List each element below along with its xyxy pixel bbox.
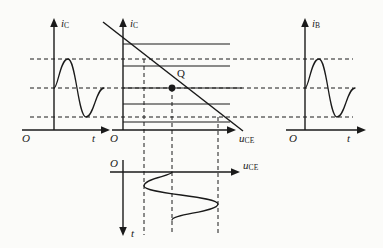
left-origin-label: O xyxy=(22,133,30,144)
right-x-axis-arrow xyxy=(357,126,366,134)
panel-right xyxy=(286,18,366,134)
center-x-axis-arrow xyxy=(227,126,236,134)
left-x-axis-arrow xyxy=(101,126,110,134)
bottom-sine-waveform xyxy=(144,172,218,220)
left-y-axis-subscript: C xyxy=(64,21,69,30)
dc-load-line xyxy=(103,22,243,131)
bottom-y-axis-label: t xyxy=(131,228,134,239)
figure-canvas: iC t O iC uCE O Q iB t O O uCE t xyxy=(0,0,383,248)
panel-bottom xyxy=(110,160,240,236)
right-y-axis-arrow xyxy=(301,18,309,27)
left-y-axis-arrow xyxy=(50,18,58,27)
q-point-label: Q xyxy=(177,68,185,79)
bottom-x-axis-label: uCE xyxy=(243,160,258,172)
panel-center xyxy=(103,18,243,134)
right-origin-label: O xyxy=(289,133,297,144)
circuit-analysis-diagram xyxy=(0,0,383,248)
center-origin-label: O xyxy=(110,133,118,144)
q-operating-point xyxy=(169,85,176,92)
center-y-axis-subscript: C xyxy=(133,21,138,30)
right-y-axis-subscript: B xyxy=(315,21,320,30)
bottom-time-axis-arrow xyxy=(119,227,127,236)
bottom-voltage-axis-arrow xyxy=(231,168,240,176)
left-y-axis-label: iC xyxy=(61,18,69,30)
panel-left xyxy=(22,18,110,134)
bottom-origin-label: O xyxy=(110,158,118,169)
center-x-axis-subscript: CE xyxy=(245,136,255,145)
left-x-axis-label: t xyxy=(92,133,95,144)
vertical-drop-lines xyxy=(144,59,218,235)
center-x-axis-label: uCE xyxy=(239,133,254,145)
center-y-axis-arrow xyxy=(119,18,127,27)
right-y-axis-label: iB xyxy=(312,18,320,30)
center-y-axis-label: iC xyxy=(130,18,138,30)
bottom-x-axis-subscript: CE xyxy=(249,163,259,172)
right-x-axis-label: t xyxy=(347,133,350,144)
